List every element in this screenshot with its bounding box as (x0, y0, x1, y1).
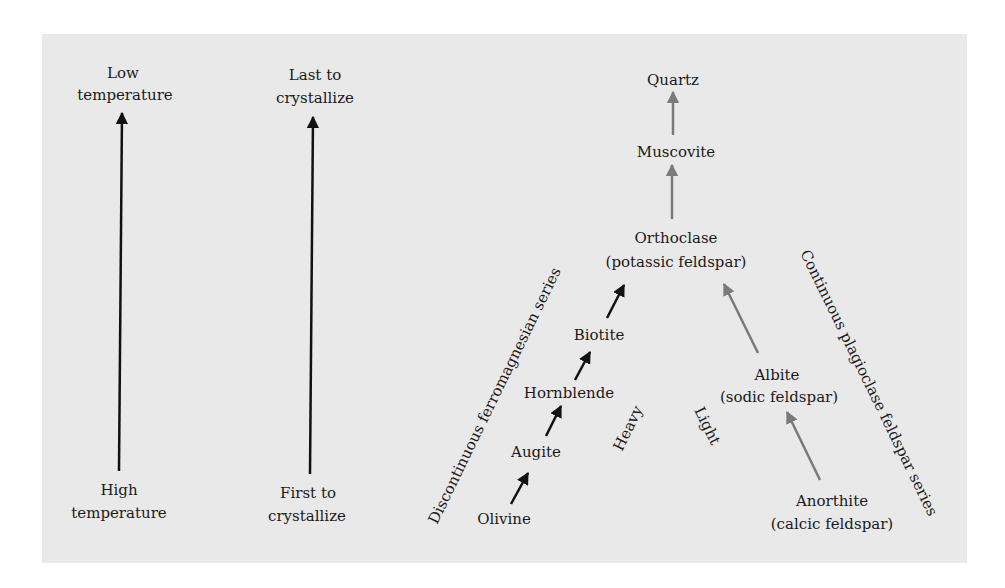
quartz-label: Quartz (647, 71, 699, 89)
augite-to-hornblende-arrow (546, 406, 561, 436)
low-temperature-label-1: Low (107, 64, 139, 82)
crystallization-arrow (310, 117, 313, 474)
olivine-to-augite-arrow (511, 473, 528, 504)
low-temperature-label-2: temperature (77, 86, 173, 104)
high-temperature-label-2: temperature (71, 504, 167, 522)
high-temperature-label-1: High (100, 481, 137, 499)
albite-to-orthoclase-arrow (724, 284, 758, 353)
last-to-crystallize-label-1: Last to (289, 66, 341, 84)
biotite-label: Biotite (574, 326, 625, 344)
augite-label: Augite (510, 443, 561, 461)
anorthite-label: Anorthite (795, 492, 868, 510)
first-to-crystallize-label-2: crystallize (268, 507, 346, 525)
orthoclase-label: Orthoclase (635, 229, 718, 247)
light-label: Light (690, 404, 724, 448)
temperature-arrow (119, 113, 122, 471)
bowens-reaction-series-diagram: Low temperature High temperature Last to… (0, 0, 1005, 588)
first-to-crystallize-label-1: First to (280, 484, 336, 502)
heavy-label: Heavy (609, 402, 646, 453)
anorthite-note: (calcic feldspar) (771, 515, 893, 533)
biotite-to-orthoclase-arrow (607, 285, 624, 318)
anorthite-to-albite-arrow (787, 412, 820, 480)
hornblende-label: Hornblende (524, 384, 614, 402)
last-to-crystallize-label-2: crystallize (276, 89, 354, 107)
albite-note: (sodic feldspar) (720, 388, 838, 406)
hornblende-to-biotite-arrow (575, 352, 590, 380)
albite-label: Albite (754, 366, 800, 384)
muscovite-label: Muscovite (637, 143, 715, 161)
orthoclase-note: (potassic feldspar) (606, 253, 747, 271)
olivine-label: Olivine (477, 510, 531, 528)
